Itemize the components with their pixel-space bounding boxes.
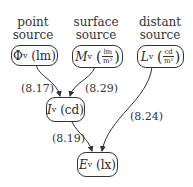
node-luminous-exitance: Mv (lmm²) xyxy=(72,45,123,68)
symbol: M xyxy=(75,50,87,64)
unit: lm xyxy=(36,49,51,63)
symbol: Φ xyxy=(13,49,23,63)
unit-fraction: cdm² xyxy=(163,48,173,65)
unit-fraction: lmm² xyxy=(102,48,113,65)
header-line: source xyxy=(8,29,58,42)
edge-label-8-17: (8.17) xyxy=(21,82,54,95)
header-distant-source: distant source xyxy=(134,16,186,42)
symbol: L xyxy=(141,50,149,64)
subscript: v xyxy=(52,105,57,114)
unit: lx xyxy=(101,158,112,172)
edge-label-8-29: (8.29) xyxy=(85,82,118,95)
header-surface-source: surface source xyxy=(68,16,124,42)
unit-denominator: m² xyxy=(103,57,112,65)
unit-denominator: m² xyxy=(164,57,173,65)
edge-label-8-24: (8.24) xyxy=(130,110,163,123)
subscript: v xyxy=(149,52,154,61)
unit-numerator: lm xyxy=(102,48,113,57)
unit-numerator: cd xyxy=(163,48,173,57)
header-line: source xyxy=(68,29,124,42)
unit: cd xyxy=(65,103,79,117)
subscript: v xyxy=(88,52,93,61)
subscript: v xyxy=(23,51,28,60)
node-luminance: Lv (cdm²) xyxy=(137,45,184,68)
edge-luminance-illuminance xyxy=(102,67,152,151)
node-illuminance: Ev (lx) xyxy=(77,152,118,177)
header-line: source xyxy=(134,29,186,42)
header-point-source: point source xyxy=(8,16,58,42)
edge-label-8-19: (8.19) xyxy=(52,132,85,145)
subscript: v xyxy=(88,160,93,169)
node-luminous-intensity: Iv (cd) xyxy=(46,97,85,122)
node-luminous-flux: Φv (lm) xyxy=(11,45,58,66)
symbol: E xyxy=(79,158,88,172)
